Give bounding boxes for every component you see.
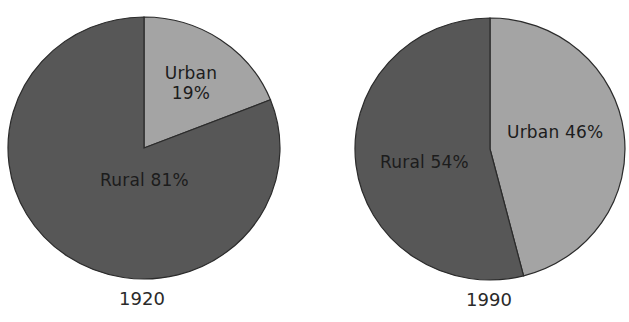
pie-1990 [355, 18, 625, 280]
pie-1920-urban-value: 19% [158, 83, 224, 103]
pie-1920-year-label: 1920 [102, 289, 182, 309]
pie-1990-urban-label: Urban 46% [507, 122, 603, 142]
pie-1920 [8, 17, 280, 279]
pie-1920-rural-label: Rural 81% [100, 170, 189, 190]
pie-1990-rural-label: Rural 54% [380, 152, 469, 172]
pie-1990-year-label: 1990 [449, 290, 529, 310]
pie-1920-urban-label: Urban 19% [158, 63, 224, 103]
pie-graphics [0, 0, 629, 322]
pie-1920-urban-name: Urban [158, 63, 224, 83]
pie-chart-comparison: Urban 19% Rural 81% 1920 Urban 46% Rural… [0, 0, 629, 322]
